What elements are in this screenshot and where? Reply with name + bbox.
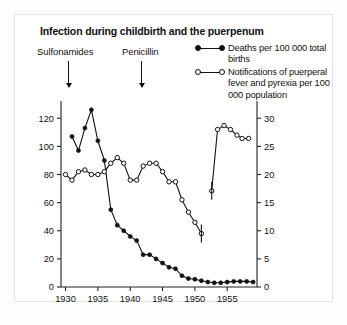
data-point [96,172,100,176]
chart-figure: Infection during childbirth and the puer… [14,14,333,302]
data-point [228,127,232,131]
data-point [246,136,250,140]
y-axis-left-tick-label: 0 [49,282,54,292]
data-point [167,180,171,184]
y-axis-right: 051015202530 [257,101,274,292]
y-axis-right-tick-label: 15 [264,198,274,208]
data-point [180,198,184,202]
y-axis-left-tick-label: 120 [38,114,54,124]
data-point [199,279,203,283]
data-point [222,123,226,127]
data-point [245,279,249,283]
data-point [186,210,190,214]
data-point [215,127,219,131]
y-axis-left-tick-label: 60 [44,198,54,208]
x-axis-tick-label: 1945 [152,294,173,303]
data-point [128,234,132,238]
y-axis-left: 020406080100120 [38,101,61,292]
y-axis-left-tick-label: 20 [44,254,54,264]
data-point [109,161,113,165]
data-point [154,257,158,261]
y-axis-left-tick-label: 100 [38,142,54,152]
data-point [76,149,80,153]
x-axis-tick-label: 1955 [217,294,238,303]
data-point [115,155,119,159]
data-point [141,253,145,257]
data-point [83,168,87,172]
data-point [148,253,152,257]
y-axis-right-tick-label: 30 [264,114,274,124]
series-line-1 [212,126,249,191]
data-point [70,178,74,182]
data-point [238,279,242,283]
data-point [147,161,151,165]
series-line-0 [72,110,253,283]
data-point [235,133,239,137]
data-point [70,135,74,139]
y-axis-right-tick-label: 0 [264,282,269,292]
data-point [102,158,106,162]
data-point [240,136,244,140]
data-point [83,126,87,130]
data-point [115,223,119,227]
data-point [206,280,210,284]
data-point [76,169,80,173]
data-point [193,220,197,224]
data-point [109,208,113,212]
x-axis-tick-label: 1930 [55,294,76,303]
data-point [96,139,100,143]
data-point [122,229,126,233]
plot-area: 020406080100120 051015202530 19301935194… [15,15,334,303]
data-point [212,281,216,285]
data-point [141,164,145,168]
data-point [219,281,223,285]
y-axis-right-tick-label: 25 [264,142,274,152]
data-point [173,180,177,184]
data-point [161,261,165,265]
data-point [63,172,67,176]
data-point [89,108,93,112]
data-point [186,277,190,281]
data-point [193,277,197,281]
data-point [134,178,138,182]
data-point [128,178,132,182]
data-point [135,239,139,243]
data-point [89,172,93,176]
x-axis-tick-label: 1935 [88,294,109,303]
data-point [122,161,126,165]
x-axis-tick-label: 1950 [185,294,206,303]
y-axis-right-tick-label: 20 [264,170,274,180]
data-point [160,169,164,173]
y-axis-left-tick-label: 40 [44,226,54,236]
y-axis-left-tick-label: 80 [44,170,54,180]
data-point [154,161,158,165]
y-axis-right-tick-label: 10 [264,226,274,236]
series-container [63,108,255,285]
data-point [180,274,184,278]
data-point [173,267,177,271]
data-point [251,280,255,284]
y-axis-right-tick-label: 5 [264,254,269,264]
data-point [167,265,171,269]
data-point [102,169,106,173]
x-axis: 193019351940194519501955 [55,287,257,303]
chart-page: Infection during childbirth and the puer… [0,0,347,325]
data-point [225,280,229,284]
data-point [232,279,236,283]
x-axis-tick-label: 1940 [120,294,141,303]
